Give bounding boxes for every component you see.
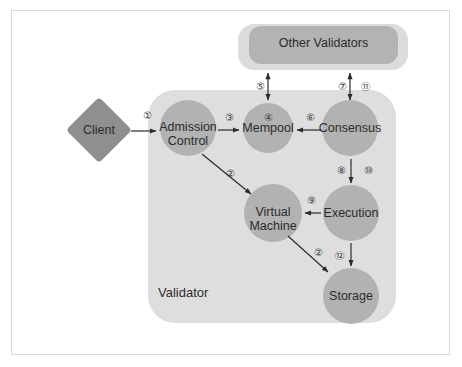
edge-label-4: ④ bbox=[260, 110, 276, 126]
edge-label-6: ⑥ bbox=[302, 110, 318, 126]
virtual-machine-node-shape bbox=[244, 184, 302, 242]
edge-label-7: ⑦ bbox=[334, 79, 350, 95]
client-node-shape bbox=[68, 99, 131, 162]
edge-label-10: ⑩ bbox=[360, 163, 376, 179]
edge-label-2a: ② bbox=[222, 166, 238, 182]
edge-label-3: ③ bbox=[221, 110, 237, 126]
edge-label-9: ⑨ bbox=[303, 193, 319, 209]
edge-label-11: ⑪ bbox=[358, 79, 374, 95]
edge-label-8: ⑧ bbox=[333, 163, 349, 179]
admission-control-node-shape bbox=[160, 100, 216, 156]
edge-label-5: ⑤ bbox=[252, 79, 268, 95]
diagram-canvas: Other Validators Validator Client Admiss… bbox=[0, 0, 462, 367]
edge-label-12: ⑫ bbox=[332, 248, 348, 264]
storage-node-shape bbox=[323, 268, 379, 324]
diagram-graphics bbox=[0, 0, 462, 367]
execution-node-shape bbox=[323, 185, 379, 241]
edge-label-2b: ② bbox=[310, 245, 326, 261]
other-validators-inner bbox=[249, 26, 398, 64]
consensus-node-shape bbox=[322, 100, 378, 156]
edge-label-1: ① bbox=[139, 108, 155, 124]
